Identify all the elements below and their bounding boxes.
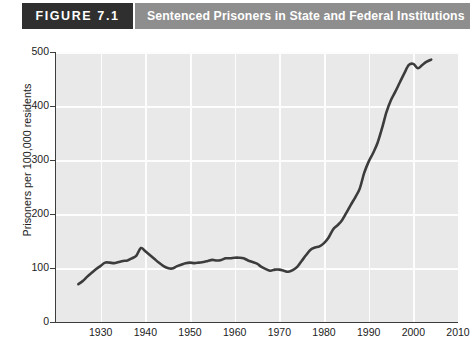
chart-area: 0100200300400500 19301940195019601970198… xyxy=(0,34,475,354)
data-series-layer xyxy=(0,34,475,354)
figure-root: FIGURE 7.1 Sentenced Prisoners in State … xyxy=(0,0,475,354)
figure-title-bar: Sentenced Prisoners in State and Federal… xyxy=(135,3,470,29)
prisoner-rate-line xyxy=(78,60,431,285)
figure-number-badge: FIGURE 7.1 xyxy=(22,3,133,29)
figure-header: FIGURE 7.1 Sentenced Prisoners in State … xyxy=(22,3,470,29)
figure-title: Sentenced Prisoners in State and Federal… xyxy=(135,9,465,23)
